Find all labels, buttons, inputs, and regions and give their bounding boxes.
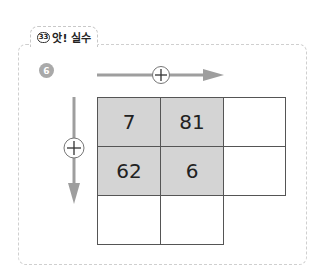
grid-cell-r2c1: 62	[97, 146, 161, 196]
horizontal-plus-arrow-icon	[97, 66, 224, 84]
section-tab: 33 앗! 실수	[30, 26, 98, 47]
section-number-badge: 33	[37, 32, 51, 43]
answer-cell-r1-sum[interactable]	[223, 97, 286, 147]
problem-number-badge: 6	[39, 63, 54, 78]
vertical-plus-arrow-icon	[63, 97, 85, 207]
grid-cell-r2c2: 6	[160, 146, 224, 196]
answer-cell-r2-sum[interactable]	[223, 146, 286, 196]
section-title: 앗! 실수	[52, 29, 91, 45]
grid-cell-r1c1: 7	[97, 97, 161, 147]
answer-cell-c2-sum[interactable]	[160, 195, 224, 245]
answer-cell-c1-sum[interactable]	[97, 195, 161, 245]
grid-cell-r1c2: 81	[160, 97, 224, 147]
